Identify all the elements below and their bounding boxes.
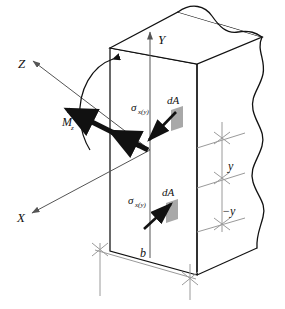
stress-subscript-lower: x(y)	[134, 201, 147, 209]
x-axis-label: X	[16, 210, 26, 225]
area-element-label-upper: dA	[167, 94, 180, 106]
stress-symbol-upper: σ	[131, 101, 137, 113]
moment-label: M z	[61, 115, 74, 132]
dimension-label-minus-y: −y	[222, 204, 236, 218]
area-element-patch-lower	[166, 199, 178, 223]
moment-label-subscript: z	[70, 124, 74, 132]
stress-subscript-upper: x(y)	[137, 108, 150, 116]
moment-rotation-arrow	[80, 59, 113, 150]
extension-line-neutral	[197, 133, 245, 148]
dimension-label-y: y	[227, 159, 234, 173]
beam-bottom-right-edge	[197, 248, 257, 275]
area-element-patch-upper	[171, 106, 183, 131]
beam-bending-diagram: Z Y X M z σ x(y) dA σ x(y) dA y −y b	[0, 0, 285, 309]
extension-line-y	[197, 173, 245, 188]
stress-symbol-lower: σ	[128, 194, 134, 206]
figure-canvas: Z Y X M z σ x(y) dA σ x(y) dA y −y b	[0, 0, 285, 309]
beam-front-face	[110, 48, 197, 275]
dimension-label-b: b	[140, 246, 146, 260]
break-edge-right	[252, 37, 264, 248]
z-axis-label: Z	[18, 56, 26, 71]
area-element-label-lower: dA	[162, 186, 175, 198]
